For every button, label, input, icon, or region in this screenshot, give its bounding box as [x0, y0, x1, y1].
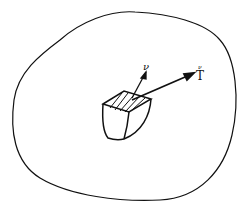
traction-vector-label: T: [196, 70, 204, 82]
diagram-canvas: [0, 0, 242, 205]
volume-element: [103, 91, 151, 140]
normal-vector-label: ν: [143, 62, 149, 72]
